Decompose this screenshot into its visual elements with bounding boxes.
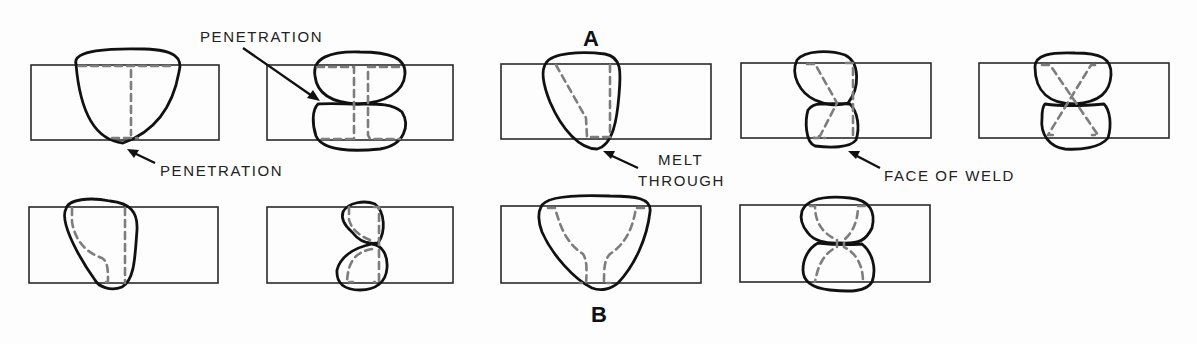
label-melt: MELT — [658, 151, 703, 168]
weld-penetration-diagram: PENETRATION PENETRATION A MELT THROUGH F… — [0, 0, 1197, 344]
weld-bead-lower — [313, 104, 405, 151]
label-penetration-bottom: PENETRATION — [160, 162, 283, 179]
label-face-of-weld: FACE OF WELD — [884, 167, 1015, 184]
label-penetration-top: PENETRATION — [200, 28, 323, 45]
label-through: THROUGH — [638, 172, 725, 189]
figure-top-4: FACE OF WELD — [741, 52, 1015, 184]
figure-bottom-3: B — [501, 196, 701, 327]
weld-bead-upper — [801, 197, 873, 243]
melt-through-leader-arrow — [610, 155, 638, 168]
face-of-weld-leader-arrow — [855, 155, 880, 168]
figure-top-3: A MELT THROUGH — [501, 26, 725, 189]
figure-bottom-2 — [267, 202, 453, 290]
figure-top-5 — [979, 53, 1169, 149]
figure-bottom-4 — [740, 197, 930, 291]
weld-bead-lower — [803, 243, 874, 291]
group-label-a: A — [583, 26, 599, 51]
weld-bead-upper — [315, 52, 405, 104]
diagram-canvas: PENETRATION PENETRATION A MELT THROUGH F… — [0, 0, 1197, 344]
weld-bead — [543, 53, 620, 149]
figure-bottom-1 — [29, 199, 218, 289]
group-label-b: B — [591, 302, 607, 327]
figure-top-1: PENETRATION — [31, 49, 283, 179]
weld-bead-upper — [795, 52, 857, 105]
weld-bead — [76, 49, 180, 143]
arrowhead-icon — [307, 90, 320, 101]
weld-bead — [539, 196, 650, 290]
figure-top-2: PENETRATION — [200, 28, 453, 150]
penetration-leader-arrow — [243, 48, 315, 98]
